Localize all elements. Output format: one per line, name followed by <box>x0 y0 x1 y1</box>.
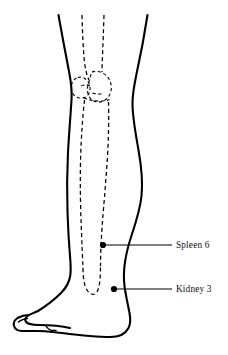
spleen-6-label: Spleen 6 <box>176 240 210 250</box>
femoral-condyle-outline <box>87 71 111 102</box>
knee-joint-detail <box>81 85 91 86</box>
annotation-spleen-6[interactable]: Spleen 6 <box>100 240 210 250</box>
kidney-3-point-dot[interactable] <box>111 286 117 292</box>
medial-malleolus-outline <box>83 266 101 294</box>
anatomical-diagram: Spleen 6 Kidney 3 <box>0 0 228 355</box>
toe-crease-detail <box>46 326 56 331</box>
tibia-anterior-border <box>80 100 84 268</box>
knee-joint-detail-2 <box>93 93 105 94</box>
leg-anterior-contour <box>38 15 72 311</box>
bone-outline-group <box>71 15 111 294</box>
femur-medial-shaft <box>82 15 89 80</box>
spleen-6-point-dot[interactable] <box>100 242 106 248</box>
tibia-posterior-border <box>101 102 109 266</box>
kidney-3-label: Kidney 3 <box>176 284 212 294</box>
foot-sole-contour <box>22 331 110 337</box>
leg-diagram-svg: Spleen 6 Kidney 3 <box>0 0 228 355</box>
femur-lateral-shaft <box>102 15 104 72</box>
foot-dorsum-contour <box>25 311 70 328</box>
